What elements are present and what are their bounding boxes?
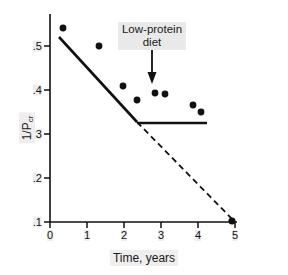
annotation-line-1: Low-protein bbox=[122, 23, 182, 36]
y-tick-label: .2 bbox=[33, 173, 42, 184]
data-point bbox=[198, 109, 205, 116]
projected-decline-dashed-line bbox=[137, 122, 235, 222]
x-axis-title: Time, years bbox=[110, 250, 178, 266]
x-tick-label: 1 bbox=[84, 230, 90, 241]
y-axis-title-text: 1/P bbox=[20, 122, 34, 140]
intervention-annotation: Low-protein diet bbox=[118, 22, 186, 50]
data-point bbox=[120, 83, 127, 90]
data-point bbox=[228, 217, 235, 224]
x-tick-label: 2 bbox=[121, 230, 127, 241]
x-tick-label: 3 bbox=[158, 230, 164, 241]
x-tick-label: 4 bbox=[195, 230, 201, 241]
down-arrow-icon bbox=[148, 50, 157, 84]
data-point bbox=[162, 91, 169, 98]
y-tick-label: .5 bbox=[33, 41, 42, 52]
y-tick-label: .4 bbox=[33, 85, 42, 96]
data-point bbox=[152, 90, 159, 97]
x-tick-marks bbox=[50, 222, 235, 228]
data-point bbox=[134, 97, 141, 104]
y-tick-label: .1 bbox=[33, 217, 42, 228]
data-point bbox=[190, 102, 197, 109]
y-axis-title-subscript: cr bbox=[26, 116, 35, 123]
data-point bbox=[60, 25, 67, 32]
y-tick-marks bbox=[44, 46, 50, 222]
x-tick-label: 0 bbox=[47, 230, 53, 241]
annotation-line-2: diet bbox=[122, 36, 182, 49]
data-point bbox=[96, 43, 103, 50]
y-axis-title: 1/Pcr bbox=[19, 113, 35, 144]
x-tick-label: 5 bbox=[232, 230, 238, 241]
chart-figure: .5 .4 .3 .2 .1 0 1 2 3 4 5 1/Pcr Time, y… bbox=[0, 0, 288, 275]
